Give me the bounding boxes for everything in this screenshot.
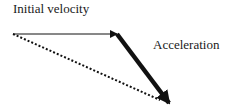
resultant-vector <box>13 34 160 100</box>
acceleration-vector <box>117 34 169 103</box>
vector-arrows <box>0 0 250 112</box>
vector-diagram: Initial velocity Acceleration <box>0 0 250 112</box>
